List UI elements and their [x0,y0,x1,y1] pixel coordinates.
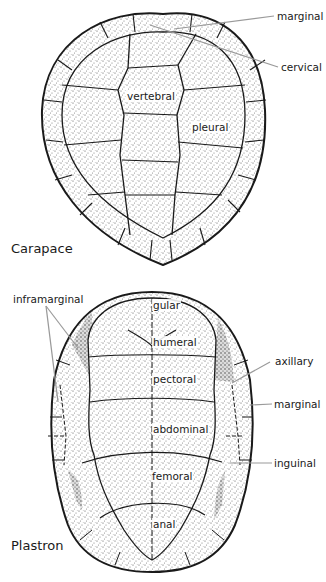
label-carapace-marginal: marginal [277,10,323,22]
turtle-shell-diagram [0,0,326,582]
label-femoral: femoral [151,470,193,482]
label-vertebral: vertebral [126,90,176,102]
label-pleural: pleural [191,121,229,133]
label-cervical: cervical [281,61,322,73]
label-pectoral: pectoral [152,373,197,385]
label-gular: gular [152,299,181,311]
label-inguinal: inguinal [274,457,316,469]
carapace-title: Carapace [11,241,73,256]
label-anal: anal [152,518,176,530]
label-inframarginal: inframarginal [13,293,83,305]
carapace-shell [42,13,266,265]
label-plastron-marginal: marginal [274,398,320,410]
label-humeral: humeral [152,336,198,348]
label-axillary: axillary [275,355,313,367]
label-abdominal: abdominal [152,423,209,435]
plastron-shell [48,292,253,572]
plastron-title: Plastron [11,538,64,553]
